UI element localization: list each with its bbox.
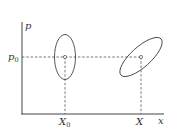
x-axis-label: x [158,115,164,126]
center-point-0 [63,55,66,58]
p0-label: p0 [8,51,19,64]
X0-label: X0 [58,116,70,129]
p-axis-label: p [25,20,32,31]
phase-space-diagram: p p0 X0 X x [0,0,176,132]
X-label: X [135,116,144,127]
center-point-1 [139,55,142,58]
